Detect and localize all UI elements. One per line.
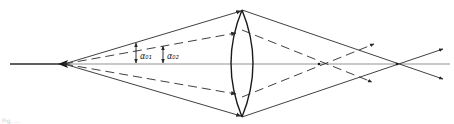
figure-caption: Fig. ... [2, 117, 20, 124]
label-alpha-01: α₀₁ [140, 52, 152, 61]
label-alpha-02: α₀₂ [167, 52, 179, 61]
diagram-canvas: α₀₁ α₀₂ Fig. ... [0, 0, 454, 124]
marginal-focus-point [396, 63, 399, 66]
biconvex-lens [231, 10, 253, 117]
dashed-rays [64, 30, 374, 97]
paraxial-focus-point [318, 63, 321, 66]
